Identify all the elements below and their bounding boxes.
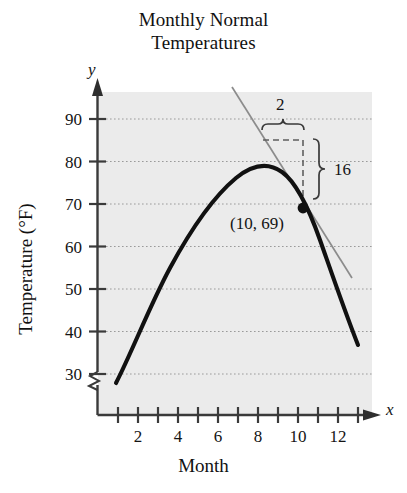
temperature-chart-figure: Monthly Normal Temperatures	[0, 0, 407, 493]
y-tick-label-30: 30	[48, 366, 82, 383]
y-axis-letter: y	[88, 60, 96, 80]
x-tick-label-2: 2	[123, 428, 153, 445]
x-tick-label-10: 10	[283, 428, 313, 445]
tangent-point-marker	[298, 203, 309, 214]
y-tick-label-60: 60	[48, 239, 82, 256]
run-label: 2	[276, 95, 285, 115]
y-tick-label-70: 70	[48, 196, 82, 213]
rise-label: 16	[334, 160, 351, 180]
y-tick-label-50: 50	[48, 281, 82, 298]
y-tick-label-80: 80	[48, 154, 82, 171]
y-tick-label-40: 40	[48, 324, 82, 341]
x-tick-label-8: 8	[243, 428, 273, 445]
x-tick-label-12: 12	[323, 428, 353, 445]
y-axis-title: Temperature (°F)	[15, 169, 37, 369]
x-tick-label-6: 6	[203, 428, 233, 445]
x-axis-title: Month	[0, 455, 407, 477]
plot-background	[98, 92, 372, 415]
x-axis-letter: x	[386, 400, 394, 420]
y-tick-label-90: 90	[48, 111, 82, 128]
x-tick-label-4: 4	[163, 428, 193, 445]
tangent-point-label: (10, 69)	[230, 214, 284, 234]
